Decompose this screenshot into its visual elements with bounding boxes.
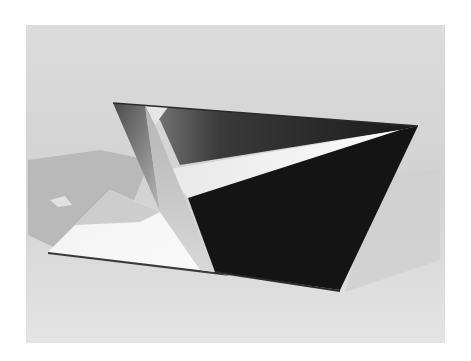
sculpture-photo <box>26 25 445 343</box>
sculpture-illustration <box>26 25 445 343</box>
